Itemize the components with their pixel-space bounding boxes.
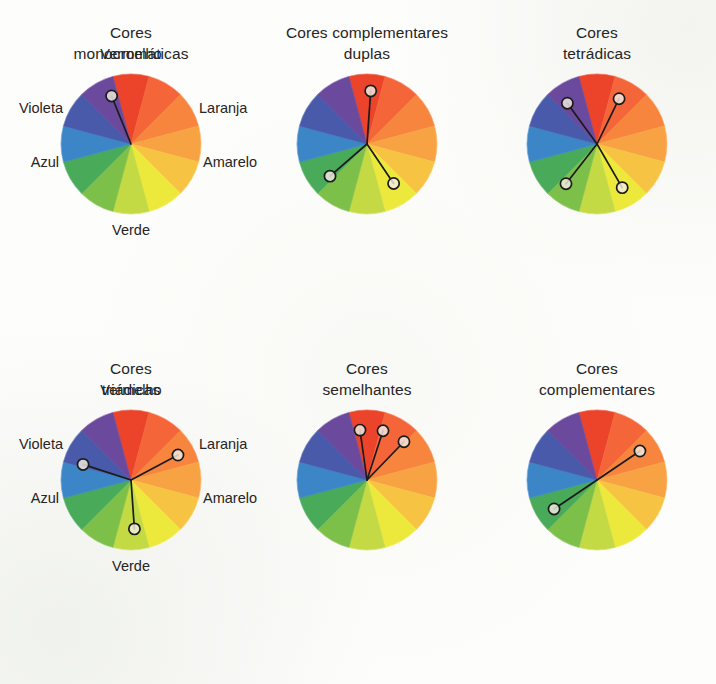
diagram-monocromaticas: Cores monocromáticasVermelhoVioletaAzulL… [12,22,250,264]
wheel-container-complementares-duplas[interactable] [293,70,441,218]
diagram-title-tetradicas: Cores tetrádicas [478,22,716,64]
marker-verde[interactable] [617,182,628,193]
marker-laranja[interactable] [634,445,645,456]
diagram-title-semelhantes: Cores semelhantes [248,358,486,400]
diagram-title-complementares: Cores complementares [478,358,716,400]
wheel-area-complementares-duplas [248,64,486,264]
color-wheel [57,406,205,554]
hue-label-laranja: Laranja [199,436,247,452]
wheel-container-triadicas[interactable]: VermelhoVioletaAzulLaranjaAmareloVerde [57,406,205,554]
diagram-triadicas: Cores triádicasVermelhoVioletaAzulLaranj… [12,358,250,600]
hue-label-violeta: Violeta [19,100,63,116]
wheel-area-monocromaticas: VermelhoVioletaAzulLaranjaAmareloVerde [12,64,250,264]
marker-vermelho[interactable] [106,90,117,101]
diagram-tetradicas: Cores tetrádicas [478,22,716,264]
marker-azul[interactable] [548,503,559,514]
hue-label-vermelho: Vermelho [100,382,161,398]
marker-verde[interactable] [129,523,140,534]
wheel-container-semelhantes[interactable] [293,406,441,554]
marker-azul[interactable] [560,178,571,189]
color-wheel [57,70,205,218]
wheel-container-monocromaticas[interactable]: VermelhoVioletaAzulLaranjaAmareloVerde [57,70,205,218]
hue-label-verde: Verde [112,222,150,238]
wheel-area-semelhantes [248,400,486,600]
diagram-semelhantes: Cores semelhantes [248,358,486,600]
marker-vermelho[interactable] [562,98,573,109]
hue-label-violeta: Violeta [19,436,63,452]
marker-amarelo-verde[interactable] [388,178,399,189]
wheel-area-complementares [478,400,716,600]
wheel-area-triadicas: VermelhoVioletaAzulLaranjaAmareloVerde [12,400,250,600]
hue-label-azul: Azul [31,154,59,170]
diagram-title-complementares-duplas: Cores complementares duplas [248,22,486,64]
wheel-container-complementares[interactable] [523,406,671,554]
marker-vermelho[interactable] [354,424,365,435]
marker-violeta[interactable] [77,459,88,470]
hue-label-vermelho: Vermelho [100,46,161,62]
marker-vermelho-laranja[interactable] [377,425,388,436]
wheel-area-tetradicas [478,64,716,264]
wheel-container-tetradicas[interactable] [523,70,671,218]
marker-vermelho-laranja[interactable] [365,85,376,96]
marker-laranja[interactable] [613,93,624,104]
hue-label-laranja: Laranja [199,100,247,116]
color-harmony-figure: Cores monocromáticasVermelhoVioletaAzulL… [0,0,716,684]
marker-laranja[interactable] [172,449,183,460]
diagram-complementares: Cores complementares [478,358,716,600]
color-wheel [293,70,441,218]
diagram-grid: Cores monocromáticasVermelhoVioletaAzulL… [0,0,716,684]
diagram-complementares-duplas: Cores complementares duplas [248,22,486,264]
hue-label-verde: Verde [112,558,150,574]
hue-label-azul: Azul [31,490,59,506]
marker-azul[interactable] [324,171,335,182]
marker-laranja[interactable] [398,436,409,447]
color-wheel [523,70,671,218]
color-wheel [523,406,671,554]
color-wheel [293,406,441,554]
